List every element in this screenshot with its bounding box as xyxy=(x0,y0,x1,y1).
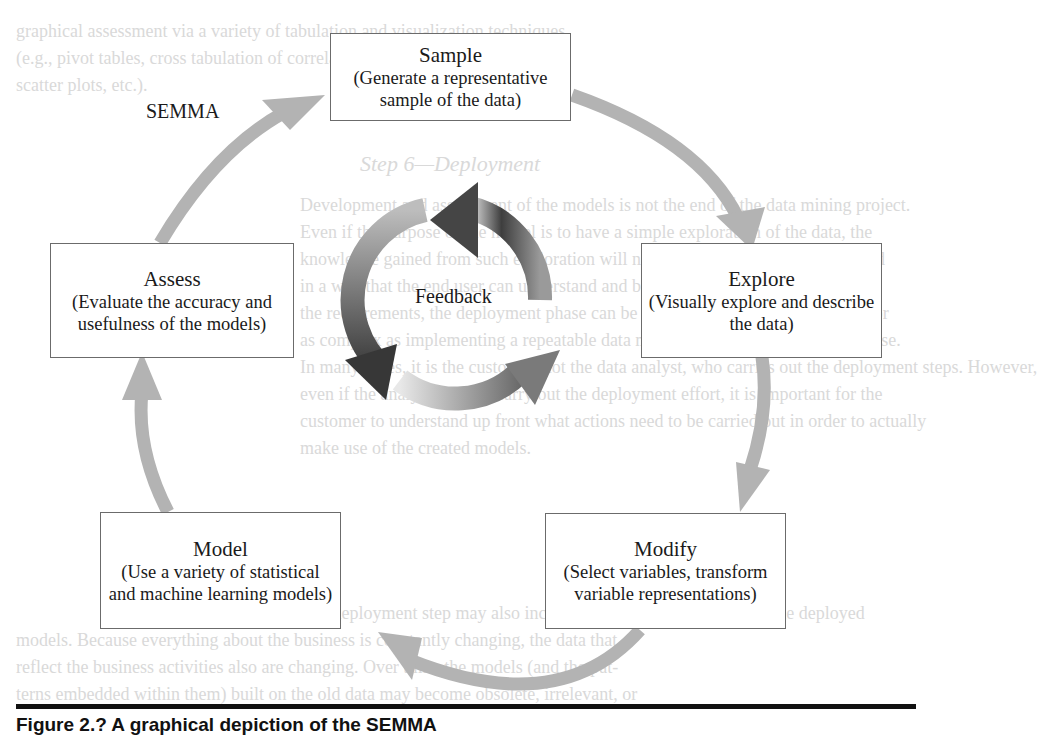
arrow-explore-to-modify xyxy=(750,357,764,470)
step-description: (Use a variety of statistical and machin… xyxy=(101,561,340,605)
feedback-arrowhead-top xyxy=(430,182,478,258)
semma-label: SEMMA xyxy=(146,100,219,123)
step-title: Sample xyxy=(419,43,482,67)
step-modify: Modify (Select variables, transform vari… xyxy=(545,513,786,629)
feedback-arrowhead-left xyxy=(345,344,397,400)
feedback-label: Feedback xyxy=(415,285,492,308)
arrowhead-assess xyxy=(122,352,162,400)
step-sample: Sample (Generate a representative sample… xyxy=(330,33,571,121)
figure-caption: Figure 2.? A graphical depiction of the … xyxy=(16,714,437,736)
step-description: (Evaluate the accuracy and usefulness of… xyxy=(51,291,293,335)
arrow-assess-to-sample xyxy=(160,112,285,243)
step-description: (Generate a representative sample of the… xyxy=(331,67,570,111)
step-title: Explore xyxy=(728,267,794,291)
arrowhead-modify xyxy=(736,462,770,512)
figure-rule xyxy=(16,704,916,709)
step-assess: Assess (Evaluate the accuracy and useful… xyxy=(50,243,294,358)
step-description: (Visually explore and describe the data) xyxy=(642,291,881,335)
arrow-modify-to-model xyxy=(410,630,640,684)
step-model: Model (Use a variety of statistical and … xyxy=(100,512,341,629)
arrowhead-model xyxy=(378,632,422,680)
step-title: Assess xyxy=(143,267,200,291)
arrow-model-to-assess xyxy=(141,392,168,512)
step-explore: Explore (Visually explore and describe t… xyxy=(641,243,882,358)
step-title: Model xyxy=(193,537,248,561)
step-title: Modify xyxy=(634,537,697,561)
arrow-sample-to-explore xyxy=(572,95,738,218)
step-description: (Select variables, transform variable re… xyxy=(546,561,785,605)
